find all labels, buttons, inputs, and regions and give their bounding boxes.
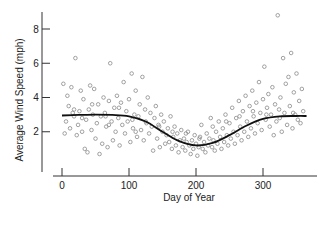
data-point [230,106,234,110]
data-point [74,56,78,60]
data-point [102,96,106,100]
data-point [296,118,300,122]
data-point [249,127,253,131]
data-point [158,145,162,149]
data-point [285,123,289,127]
data-point [153,116,157,120]
data-point [96,103,100,107]
data-point [189,152,193,156]
data-point [167,140,171,144]
data-point [171,130,175,134]
data-point [100,142,104,146]
data-point [271,85,275,89]
x-tick-label: 100 [121,180,138,191]
data-point [253,132,257,136]
data-point [125,109,129,113]
data-point [147,132,151,136]
data-point [117,106,121,110]
data-point [138,103,142,107]
data-point [241,109,245,113]
data-point [210,145,214,149]
data-point [133,113,137,117]
data-point [149,111,153,115]
data-point [196,154,200,158]
data-point [142,139,146,143]
y-tick-label: 4 [33,92,39,103]
data-point [82,97,86,101]
data-point [106,145,110,149]
data-point [151,149,155,153]
data-point [220,147,224,151]
data-point [259,111,263,115]
x-axis-title: Day of Year [163,192,215,203]
data-point [251,109,255,113]
data-point [233,142,237,146]
data-point [111,139,115,143]
data-point [284,82,288,86]
data-point [141,75,145,79]
data-point [129,140,133,144]
data-point [107,99,111,103]
data-point [252,115,256,119]
data-point [173,125,177,129]
data-point [260,128,264,132]
data-point [76,123,80,127]
data-point [131,127,135,131]
data-point [135,135,139,139]
data-point [67,104,71,108]
data-point [288,104,292,108]
data-point [214,130,218,134]
data-point [143,108,147,112]
data-point [170,147,174,151]
data-point [245,120,249,124]
data-point [62,82,66,86]
data-point [240,139,244,143]
data-point [163,142,167,146]
data-point [159,113,163,117]
data-point [224,113,228,117]
data-point [250,89,254,93]
data-point [177,151,181,155]
data-point [297,99,301,103]
data-point [162,120,166,124]
data-point [94,137,98,141]
data-point [181,145,185,149]
data-point [87,108,91,112]
data-point [127,97,131,101]
data-point [254,101,258,105]
data-point [277,108,281,112]
data-point [78,109,82,113]
data-point [289,51,293,55]
data-point [275,120,279,124]
data-point [257,80,261,84]
x-tick-label: 0 [59,180,65,191]
data-point [221,127,225,131]
data-point [126,120,130,124]
data-point [267,92,271,96]
data-point [174,144,178,148]
data-point [119,101,123,105]
data-point [291,127,295,131]
data-point [217,120,221,124]
data-point [224,120,228,124]
data-point [66,94,70,98]
data-point [201,147,205,151]
y-tick-label: 2 [33,126,39,137]
data-point [193,133,197,137]
data-point [218,135,222,139]
data-point [281,56,285,60]
data-point [269,113,273,117]
data-point [123,132,127,136]
data-point [208,137,212,141]
data-point [273,103,277,107]
data-point [80,116,84,120]
data-point [115,94,119,98]
data-point [205,132,209,136]
data-point [283,111,287,115]
data-point [75,133,79,137]
data-point [90,103,94,107]
data-point [295,72,299,76]
data-point [226,144,230,148]
data-point [70,85,74,89]
data-point [272,133,276,137]
